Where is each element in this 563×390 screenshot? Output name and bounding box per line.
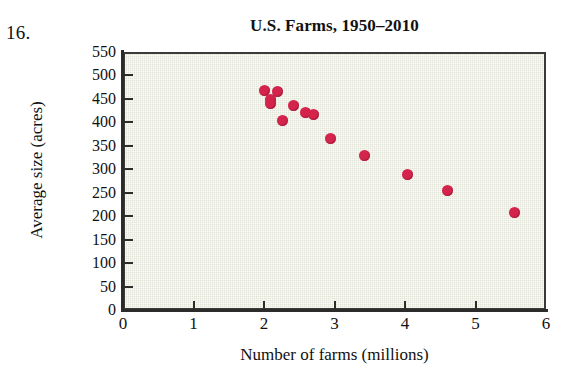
y-axis-tick	[124, 74, 133, 76]
y-axis-tick	[124, 121, 133, 123]
x-axis-tick	[334, 301, 336, 310]
x-axis-tick-label: 4	[390, 314, 420, 334]
x-axis-tick	[475, 301, 477, 310]
y-axis-tick-label: 50	[70, 279, 116, 295]
y-axis-tick-label: 450	[70, 91, 116, 107]
y-axis-tick-label: 300	[70, 161, 116, 177]
y-axis-tick-label: 350	[70, 138, 116, 154]
y-axis-tick-label: 500	[70, 67, 116, 83]
y-axis-line	[121, 50, 124, 312]
x-axis-tick	[263, 301, 265, 310]
y-axis-tick-label-text: 400	[72, 114, 116, 130]
chart-title: U.S. Farms, 1950–2010	[123, 16, 546, 36]
y-axis-tick	[124, 145, 133, 147]
x-axis-tick-label: 1	[179, 314, 209, 334]
y-axis-tick-label: 150	[70, 232, 116, 248]
y-axis-tick-label: 200	[70, 208, 116, 224]
y-axis-tick	[124, 239, 133, 241]
scatter-point	[325, 133, 336, 144]
scatter-point	[265, 98, 276, 109]
scatter-point	[277, 115, 288, 126]
y-axis-title: Average size (acres)	[27, 70, 47, 270]
y-axis-tick-label-text: 200	[72, 208, 116, 224]
y-axis-tick-label-text: 450	[72, 91, 116, 107]
y-axis-tick-label-text: 550	[72, 44, 116, 60]
x-axis-tick	[404, 301, 406, 310]
scatter-point	[288, 100, 299, 111]
y-axis-tick-label-text: 100	[72, 255, 116, 271]
scatter-point	[308, 109, 319, 120]
x-axis-tick-label: 0	[108, 314, 138, 334]
y-axis-tick-label-text: 50	[72, 279, 116, 295]
y-axis-tick	[124, 192, 133, 194]
scatter-point	[402, 169, 413, 180]
problem-number: 16.	[6, 22, 30, 44]
y-axis-tick-label: 250	[70, 185, 116, 201]
scatter-point	[442, 185, 453, 196]
x-axis-tick-label: 5	[461, 314, 491, 334]
y-axis-tick-label-text: 150	[72, 232, 116, 248]
y-axis-tick	[124, 98, 133, 100]
x-axis-title: Number of farms (millions)	[123, 345, 546, 365]
y-axis-tick-label-text: 300	[72, 161, 116, 177]
y-axis-tick-label-text: 250	[72, 185, 116, 201]
figure-container: 16. U.S. Farms, 1950–2010 05010015020025…	[0, 0, 563, 390]
y-axis-tick-label-text: 500	[72, 67, 116, 83]
plot-area	[123, 52, 546, 310]
scatter-point	[509, 207, 520, 218]
x-axis-tick	[193, 301, 195, 310]
x-axis-tick-label: 3	[320, 314, 350, 334]
y-axis-tick-label: 100	[70, 255, 116, 271]
x-axis-tick-label: 6	[531, 314, 561, 334]
x-axis-tick-label: 2	[249, 314, 279, 334]
y-axis-tick	[124, 286, 133, 288]
y-axis-tick	[124, 215, 133, 217]
scatter-point	[359, 150, 370, 161]
y-axis-tick-label: 550	[70, 44, 116, 60]
y-axis-tick-label: 400	[70, 114, 116, 130]
y-axis-tick-label-text: 350	[72, 138, 116, 154]
y-axis-tick	[124, 262, 133, 264]
y-axis-tick	[124, 168, 133, 170]
